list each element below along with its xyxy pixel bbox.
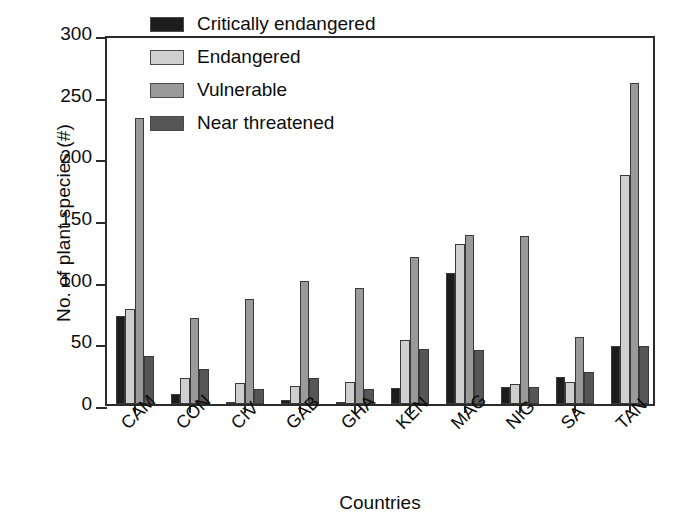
y-tick-label-50: 50 [16, 331, 92, 353]
y-tick-label-250: 250 [16, 85, 92, 107]
bar-tan-series-0 [611, 346, 621, 404]
y-tick-150 [96, 222, 107, 224]
bar-cam-series-2 [135, 118, 145, 404]
bar-gha-series-2 [355, 288, 365, 404]
bar-con-series-1 [180, 378, 190, 404]
bar-civ-series-0 [226, 402, 236, 404]
bar-civ-series-1 [235, 383, 245, 404]
y-tick-300 [96, 37, 107, 39]
y-tick-0 [96, 407, 107, 409]
bar-con-series-2 [190, 318, 200, 404]
bar-sa-series-2 [575, 337, 585, 404]
legend-label-0: Critically endangered [197, 13, 376, 35]
bar-ken-series-2 [410, 257, 420, 404]
legend-label-3: Near threatened [197, 112, 334, 134]
legend-swatch-icon-2 [150, 83, 184, 98]
legend-swatch-icon-0 [150, 17, 184, 32]
y-tick-label-150: 150 [16, 208, 92, 230]
y-tick-label-300: 300 [16, 23, 92, 45]
bar-gha-series-1 [345, 382, 355, 404]
bar-gab-series-0 [281, 400, 291, 404]
bar-cam-series-1 [125, 309, 135, 404]
y-tick-label-0: 0 [16, 393, 92, 415]
bar-gab-series-2 [300, 281, 310, 404]
bar-gha-series-0 [336, 402, 346, 404]
bar-tan-series-1 [620, 175, 630, 404]
y-tick-label-100: 100 [16, 270, 92, 292]
bar-sa-series-3 [584, 372, 594, 404]
bar-nig-series-0 [501, 387, 511, 404]
legend-label-1: Endangered [197, 46, 301, 68]
bar-civ-series-3 [254, 389, 264, 404]
legend-item-1: Endangered [150, 43, 376, 71]
y-tick-50 [96, 345, 107, 347]
legend-item-2: Vulnerable [150, 76, 376, 104]
bar-tan-series-3 [639, 346, 649, 404]
chart-figure: No. of plant species (#) 050100150200250… [0, 0, 681, 524]
y-tick-label-200: 200 [16, 146, 92, 168]
x-axis-title: Countries [105, 492, 655, 514]
legend-item-0: Critically endangered [150, 10, 376, 38]
bar-con-series-0 [171, 394, 181, 404]
legend-swatch-icon-3 [150, 116, 184, 131]
bar-mag-series-2 [465, 235, 475, 404]
bar-mag-series-0 [446, 273, 456, 404]
bar-sa-series-1 [565, 382, 575, 404]
bar-ken-series-0 [391, 388, 401, 404]
bar-tan-series-2 [630, 83, 640, 404]
bar-cam-series-0 [116, 316, 126, 404]
bar-mag-series-1 [455, 244, 465, 404]
bar-civ-series-2 [245, 299, 255, 404]
y-tick-250 [96, 99, 107, 101]
bar-nig-series-2 [520, 236, 530, 404]
legend-item-3: Near threatened [150, 109, 376, 137]
chart-legend: Critically endangeredEndangeredVulnerabl… [150, 10, 376, 142]
legend-label-2: Vulnerable [197, 79, 287, 101]
x-tick-label-sa: SA [557, 402, 589, 434]
bar-sa-series-0 [556, 377, 566, 404]
y-tick-200 [96, 160, 107, 162]
bar-ken-series-1 [400, 340, 410, 404]
y-tick-100 [96, 284, 107, 286]
legend-swatch-icon-1 [150, 50, 184, 65]
